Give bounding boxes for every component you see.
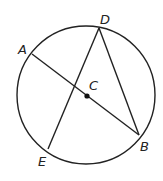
label-C: C <box>89 78 99 93</box>
center-point <box>84 93 89 98</box>
label-D: D <box>100 12 110 27</box>
label-E: E <box>38 154 47 169</box>
circle-diagram: A D C B E <box>0 0 163 181</box>
label-A: A <box>17 42 27 57</box>
label-B: B <box>140 139 149 154</box>
